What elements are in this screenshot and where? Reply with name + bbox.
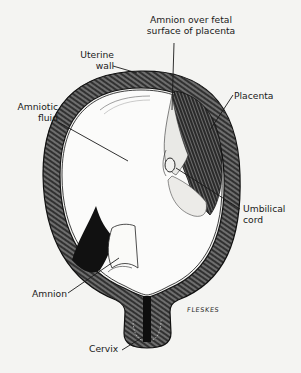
label-amnion-over-placenta-line2: surface of placenta — [143, 25, 239, 36]
label-uterine-wall: Uterine wall — [70, 49, 114, 71]
label-amniotic-fluid-line1: Amniotic — [10, 101, 58, 112]
label-umbilical-cord-line2: cord — [243, 214, 285, 225]
cervical-canal — [143, 296, 151, 342]
label-placenta-line1: Placenta — [234, 90, 273, 101]
label-amnion: Amnion — [32, 288, 67, 299]
label-amnion-over-placenta-line1: Amnion over fetal — [143, 14, 239, 25]
label-uterine-wall-line2: wall — [70, 60, 114, 71]
label-placenta: Placenta — [234, 90, 273, 101]
label-cervix: Cervix — [89, 343, 118, 354]
uterus-diagram — [0, 0, 301, 373]
label-amniotic-fluid-line2: fluid — [10, 112, 58, 123]
label-amniotic-fluid: Amniotic fluid — [10, 101, 58, 123]
label-amnion-line1: Amnion — [32, 288, 67, 299]
umbilical-cord-shape — [165, 158, 175, 172]
label-cervix-line1: Cervix — [89, 343, 118, 354]
label-umbilical-cord: Umbilical cord — [243, 203, 285, 225]
artist-signature: FLESKES — [187, 306, 220, 314]
label-umbilical-cord-line1: Umbilical — [243, 203, 285, 214]
label-amnion-over-placenta: Amnion over fetal surface of placenta — [143, 14, 239, 36]
label-uterine-wall-line1: Uterine — [70, 49, 114, 60]
